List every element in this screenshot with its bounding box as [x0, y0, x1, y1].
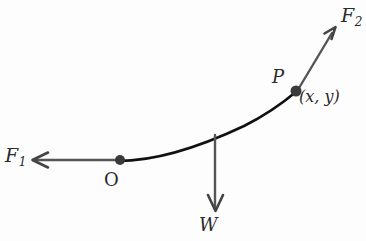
- origin-point-marker: [115, 155, 125, 165]
- force-right-label: F2: [341, 6, 362, 28]
- force-right-subscript: 2: [355, 15, 363, 29]
- point-label: P: [272, 68, 284, 86]
- diagram-canvas: [0, 0, 366, 241]
- force-right-arrow-shaft: [299, 33, 332, 88]
- force-left-subscript: 1: [19, 155, 27, 169]
- force-left-symbol: F: [5, 144, 18, 166]
- coordinates-label: (x, y): [299, 89, 340, 105]
- origin-label: O: [104, 171, 119, 189]
- weight-label: W: [199, 216, 218, 234]
- force-left-label: F1: [5, 146, 26, 168]
- physics-force-diagram: F1 F2 W O P (x, y): [0, 0, 366, 241]
- force-right-symbol: F: [341, 4, 354, 26]
- catenary-curve: [118, 91, 297, 161]
